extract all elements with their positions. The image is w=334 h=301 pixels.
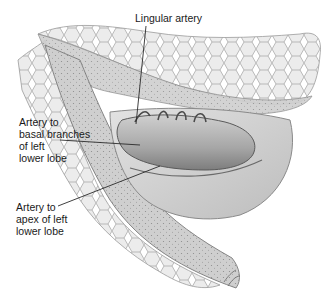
label-artery-basal-branches: Artery to basal branches of left lower l… [19, 116, 90, 164]
label-artery-apex-lower-lobe: Artery to apex of left lower lobe [16, 201, 67, 237]
label-lingular-artery: Lingular artery [135, 12, 202, 24]
